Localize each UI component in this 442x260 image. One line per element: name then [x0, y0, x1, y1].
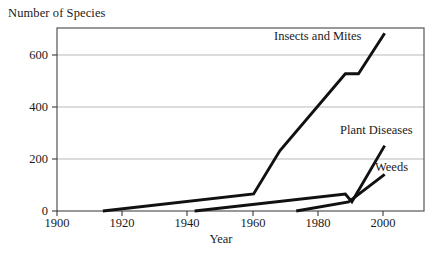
- series-line-weeds: [296, 174, 384, 211]
- x-tick-label-1980: 1980: [290, 217, 346, 230]
- x-tick-label-1920: 1920: [94, 217, 150, 230]
- y-tick-label-0: 0: [4, 205, 48, 218]
- x-tick-label-1960: 1960: [225, 217, 281, 230]
- x-tick-label-2000: 2000: [355, 217, 411, 230]
- y-tick-label-200: 200: [4, 153, 48, 166]
- y-tick-label-600: 600: [4, 49, 48, 62]
- series-label-weeds: Weeds: [375, 161, 408, 174]
- x-axis-title: Year: [0, 232, 442, 247]
- series-label-insects-and-mites: Insects and Mites: [274, 30, 361, 43]
- y-axis-ticks: [52, 55, 57, 211]
- chart-figure: Number of Species: [0, 0, 442, 260]
- series-label-plant-diseases: Plant Diseases: [340, 124, 413, 137]
- x-tick-label-1940: 1940: [159, 217, 215, 230]
- y-tick-label-400: 400: [4, 101, 48, 114]
- gridlines: [57, 55, 424, 159]
- x-tick-label-1900: 1900: [29, 217, 85, 230]
- series-line-plant-diseases: [195, 146, 385, 211]
